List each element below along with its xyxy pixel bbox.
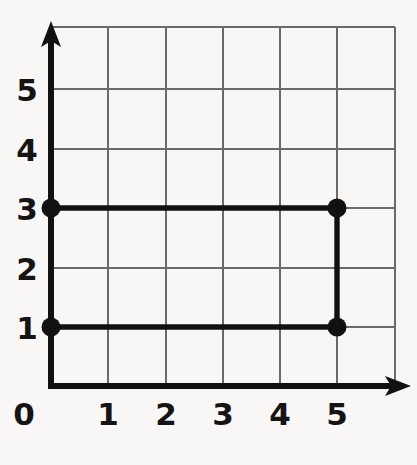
vertex-dot — [42, 318, 61, 337]
vertex-dot — [328, 199, 347, 218]
y-tick-label: 2 — [16, 251, 38, 287]
x-tick-label: 3 — [212, 396, 234, 432]
vertex-dot — [42, 199, 61, 218]
y-tick-label: 1 — [16, 310, 38, 346]
y-tick-label: 3 — [16, 191, 38, 227]
x-tick-label: 5 — [326, 396, 348, 432]
y-tick-label: 4 — [16, 132, 38, 168]
figure-background — [0, 0, 417, 465]
coordinate-grid-figure: 0 1 2 3 4 5 1 2 3 4 5 — [0, 0, 417, 465]
x-tick-label: 4 — [269, 396, 291, 432]
x-tick-label: 1 — [97, 396, 119, 432]
plot-canvas: 0 1 2 3 4 5 1 2 3 4 5 — [0, 0, 417, 465]
x-tick-label: 2 — [155, 396, 177, 432]
y-tick-label: 5 — [16, 72, 38, 108]
x-tick-label: 0 — [13, 396, 35, 432]
vertex-dot — [328, 318, 347, 337]
